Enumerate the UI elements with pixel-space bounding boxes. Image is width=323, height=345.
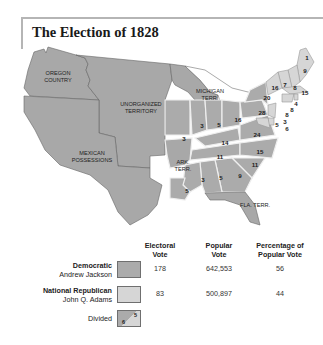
label-oregon-1: OREGON xyxy=(46,70,71,76)
ev-maryland-b: 6 xyxy=(285,125,289,132)
state-new-jersey xyxy=(268,103,276,118)
swatch-divided: 6 5 xyxy=(117,310,141,327)
label-mexican-1: MEXICAN xyxy=(79,150,105,156)
ev-north-carolina: 15 xyxy=(257,148,264,155)
us-1828-map: OREGON COUNTRY UNORGANIZED TERRITORY MEX… xyxy=(0,0,323,240)
ev-new-hampshire: 8 xyxy=(293,84,297,91)
ev-new-york-upper: 16 xyxy=(272,84,279,91)
ev-maine: 9 xyxy=(303,67,307,74)
ev-pennsylvania: 28 xyxy=(259,109,266,116)
ev-mississippi: 3 xyxy=(201,176,205,183)
ev-indiana: 5 xyxy=(217,121,221,128)
legend-row-divided-name: Divided xyxy=(40,315,112,324)
divided-number-left: 6 xyxy=(122,319,125,325)
legend: Electoral Vote Popular Vote Percentage o… xyxy=(0,240,323,345)
ev-connecticut: 8 xyxy=(290,106,294,113)
ev-massachusetts: 15 xyxy=(302,89,309,96)
percentage-national-republican: 44 xyxy=(245,289,315,298)
header-popular: Popular Vote xyxy=(196,242,242,259)
label-mexican-2: POSSESSIONS xyxy=(72,157,113,163)
ev-maryland-a: 5 xyxy=(275,121,279,128)
ev-rhode-island: 4 xyxy=(294,100,298,107)
ev-south-carolina: 11 xyxy=(252,161,259,168)
percentage-democratic: 56 xyxy=(245,264,315,273)
ev-virginia: 24 xyxy=(254,131,261,138)
ev-louisiana: 5 xyxy=(185,187,189,194)
electoral-vote-national-republican: 83 xyxy=(140,289,180,298)
ev-tennessee: 11 xyxy=(217,153,224,160)
swatch-national-republican xyxy=(117,286,141,303)
state-ohio xyxy=(222,100,240,128)
label-michigan-2: TERR. xyxy=(202,95,219,101)
legend-row-national-republican-name: National Republican John Q. Adams xyxy=(10,287,112,304)
ev-illinois: 3 xyxy=(200,122,204,129)
ev-vermont: 7 xyxy=(283,81,287,88)
swatch-democratic xyxy=(117,261,141,278)
label-unorganized-1: UNORGANIZED xyxy=(120,101,161,107)
popular-vote-democratic: 642,553 xyxy=(196,264,242,273)
label-michigan-1: MICHIGAN xyxy=(196,88,224,94)
ev-ohio: 16 xyxy=(235,116,242,123)
ev-missouri: 3 xyxy=(182,135,186,142)
state-connecticut xyxy=(282,94,294,102)
label-florida: FLA. TERR. xyxy=(240,202,270,208)
legend-row-democratic-name: Democratic Andrew Jackson xyxy=(20,262,112,279)
label-arkansas-2: TERR. xyxy=(175,166,192,172)
header-electoral: Electoral Vote xyxy=(140,242,180,259)
header-percentage: Percentage of Popular Vote xyxy=(245,242,315,259)
ev-maine-divided: 1 xyxy=(305,54,309,61)
electoral-vote-democratic: 178 xyxy=(140,264,180,273)
state-illinois xyxy=(190,100,207,135)
ev-delaware: 3 xyxy=(283,118,287,125)
ev-georgia: 9 xyxy=(238,172,242,179)
ev-new-york: 20 xyxy=(264,94,271,101)
ev-kentucky: 14 xyxy=(222,139,229,146)
florida-territory-region xyxy=(205,192,260,225)
state-missouri xyxy=(165,100,190,135)
divided-number-right: 5 xyxy=(134,312,137,318)
label-unorganized-2: TERRITORY xyxy=(125,108,157,114)
popular-vote-national-republican: 500,897 xyxy=(196,289,242,298)
ev-alabama: 5 xyxy=(219,174,223,181)
label-arkansas-1: ARK. xyxy=(176,159,190,165)
label-oregon-2: COUNTRY xyxy=(44,77,72,83)
ev-new-jersey: 8 xyxy=(285,111,289,118)
